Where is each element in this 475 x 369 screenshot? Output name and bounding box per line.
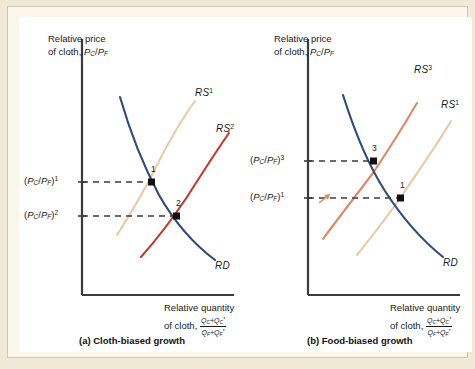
frac-den-star2-a: * xyxy=(223,328,225,334)
price-2a-sup: 2 xyxy=(54,209,58,216)
point-label-1-b: 1 xyxy=(400,180,405,190)
caption-panel-b: (b) Food-biased growth xyxy=(307,335,413,346)
point-marker-1-b xyxy=(397,195,404,202)
point-marker-1-a xyxy=(148,179,155,186)
curve-label-rs3-sup-b: 3 xyxy=(428,64,432,71)
figure-border: Relative price of cloth, PC/PF Relative … xyxy=(7,6,468,358)
x-axis-fraction-numerator-b: QC+QC* xyxy=(426,315,452,327)
y-axis-sub-f-b: F xyxy=(330,50,334,57)
curve-label-rs2-text-a: RS xyxy=(216,123,230,134)
curve-label-rs2-a: RS2 xyxy=(216,123,234,134)
price-label-1-a: (PC/PF)1 xyxy=(24,175,58,186)
figure-outer-background: Relative price of cloth, PC/PF Relative … xyxy=(0,0,475,369)
point-marker-3-b xyxy=(370,158,377,165)
x-axis-fraction-b: QC+QC* QF+QF* xyxy=(426,315,452,338)
frac-num-star2-b: * xyxy=(449,316,451,322)
curve-label-rs1-sup-b: 1 xyxy=(455,99,459,106)
point-marker-2-a xyxy=(173,213,180,220)
figure-content-area: Relative price of cloth, PC/PF Relative … xyxy=(19,17,472,352)
curve-rs1-a xyxy=(117,101,195,235)
x-axis-title-b: Relative quantity xyxy=(390,302,460,315)
y-axis-title-line2-prefix-a: of cloth, xyxy=(48,46,84,57)
frac-den-star2-b: * xyxy=(449,328,451,334)
x-axis-title-line1-b: Relative quantity xyxy=(390,302,460,313)
y-axis-title-a: Relative price of cloth, PC/PF xyxy=(48,33,108,60)
curve-label-rd-text-b: RD xyxy=(443,257,458,268)
curve-label-rd-a: RD xyxy=(215,260,230,271)
x-axis-fraction-denominator-a: QF+QF* xyxy=(200,327,226,338)
curve-rs3-b xyxy=(323,103,417,239)
curve-rd-b xyxy=(343,95,443,257)
panel-food-biased-growth: Relative price of cloth, PC/PF Relative … xyxy=(245,17,472,352)
x-axis-fraction-a: QC+QC* QF+QF* xyxy=(200,315,226,338)
y-axis-title-line2-prefix-b: of cloth, xyxy=(274,46,310,57)
x-axis-title-line2-b: of cloth, xyxy=(390,320,423,331)
y-axis-sub-f-a: F xyxy=(104,50,108,57)
y-axis-title-b: Relative price of cloth, PC/PF xyxy=(274,33,334,60)
x-axis-fraction-denominator-b: QF+QF* xyxy=(426,327,452,338)
curve-label-rs1-sup-a: 1 xyxy=(209,87,213,94)
price-label-1-b: (PC/PF)1 xyxy=(250,191,284,202)
curve-rs2-a xyxy=(141,133,229,257)
x-axis-title-line1-a: Relative quantity xyxy=(164,302,234,313)
curve-label-rs3-text-b: RS xyxy=(414,64,428,75)
curve-label-rs1-b: RS1 xyxy=(441,99,459,110)
curve-label-rd-b: RD xyxy=(443,257,458,268)
point-label-1-a: 1 xyxy=(151,164,156,174)
price-label-3-b: (PC/PF)3 xyxy=(250,154,284,165)
price-label-2-a: (PC/PF)2 xyxy=(24,209,58,220)
x-axis-title-line2-a: of cloth, xyxy=(164,320,197,331)
price-1a-sup: 1 xyxy=(54,175,58,182)
curve-label-rs1-a: RS1 xyxy=(195,87,213,98)
curve-label-rs3-b: RS3 xyxy=(414,64,432,75)
curve-label-rs1-text-a: RS xyxy=(195,87,209,98)
curve-label-rs2-sup-a: 2 xyxy=(230,123,234,130)
point-label-2-a: 2 xyxy=(176,198,181,208)
y-axis-title-line1-b: Relative price xyxy=(274,33,332,44)
panel-cloth-biased-growth: Relative price of cloth, PC/PF Relative … xyxy=(19,17,245,352)
caption-panel-a: (a) Cloth-biased growth xyxy=(79,335,185,346)
frac-num-star2-a: * xyxy=(223,316,225,322)
x-axis-title-a: Relative quantity xyxy=(164,302,234,315)
x-axis-fraction-numerator-a: QC+QC* xyxy=(200,315,226,327)
curve-label-rs1-text-b: RS xyxy=(441,99,455,110)
curve-label-rd-text-a: RD xyxy=(215,260,230,271)
point-label-3-b: 3 xyxy=(372,143,377,153)
price-1b-sup: 1 xyxy=(280,191,284,198)
curve-rd-a xyxy=(120,97,215,260)
price-3b-sup: 3 xyxy=(280,154,284,161)
y-axis-title-line1-a: Relative price xyxy=(48,33,106,44)
